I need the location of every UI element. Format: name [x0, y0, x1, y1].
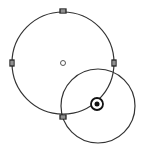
center-marker-icon[interactable] — [61, 61, 66, 66]
circle-diagram-canvas — [0, 0, 142, 147]
target-point-icon[interactable] — [91, 98, 103, 110]
